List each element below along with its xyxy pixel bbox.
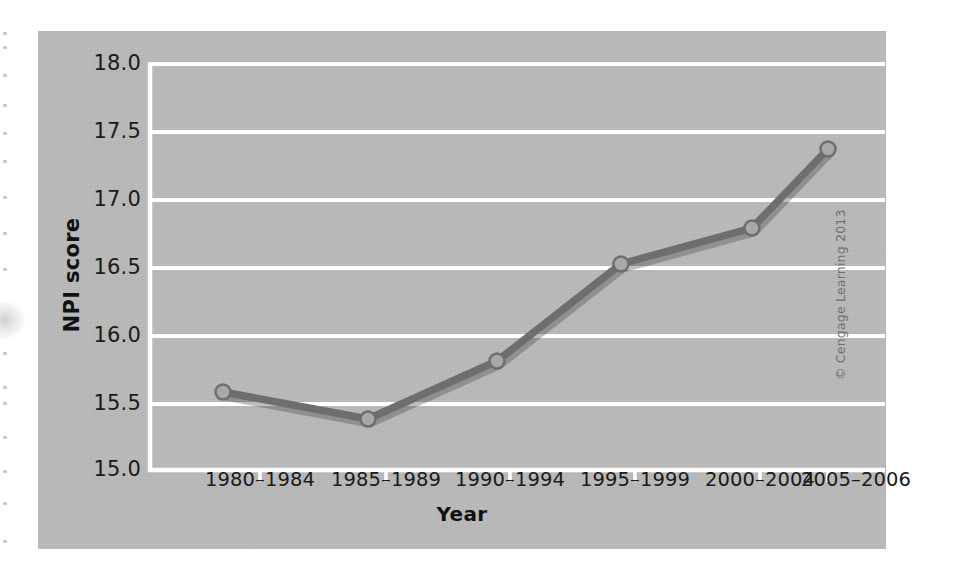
y-tick-label: 15.5 [41, 393, 141, 414]
y-tick-label: 18.0 [41, 53, 141, 74]
data-point-markers [216, 142, 836, 427]
x-axis-title: Year [38, 502, 886, 526]
x-tick-label: 2005–2006 [776, 468, 936, 491]
copyright-credit: © Cengage Learning 2013 [833, 150, 848, 380]
y-axis-title: NPI score [60, 215, 84, 335]
series-line-shadow [225, 153, 830, 423]
y-tick-label: 16.0 [41, 325, 141, 346]
y-tick-label: 17.0 [41, 189, 141, 210]
scan-edge-artifacts [0, 0, 14, 581]
series-line-npi-score [223, 149, 828, 419]
chart-figure-panel: 18.0 17.5 17.0 16.5 16.0 15.5 15.0 NPI s… [38, 31, 886, 549]
scan-smudge-artifact [0, 300, 26, 340]
y-tick-label: 17.5 [41, 121, 141, 142]
y-tick-label: 16.5 [41, 257, 141, 278]
